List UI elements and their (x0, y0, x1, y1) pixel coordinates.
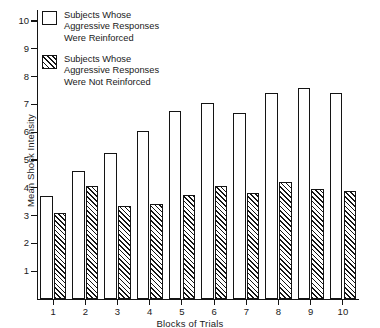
x-tick-7 (246, 300, 247, 305)
bar-block-2-series-2 (86, 186, 99, 299)
legend-label-not-reinforced: Subjects Whose Aggressive Responses Were… (64, 54, 159, 88)
legend-entry-not-reinforced: Subjects Whose Aggressive Responses Were… (42, 54, 159, 88)
bar-block-7-series-2 (247, 193, 260, 299)
bar-block-2-series-1 (72, 171, 85, 299)
y-tick-9 (31, 48, 38, 49)
bar-block-8-series-2 (279, 182, 292, 299)
bar-block-9-series-2 (311, 189, 324, 299)
bar-block-3-series-2 (118, 206, 131, 299)
y-tick-label-6: 6 (0, 127, 29, 137)
bar-block-3-series-1 (104, 153, 117, 299)
bar-block-5-series-1 (169, 111, 182, 299)
legend-entry-reinforced: Subjects Whose Aggressive Responses Were… (42, 10, 159, 44)
bar-block-6-series-2 (215, 186, 228, 299)
bar-block-9-series-1 (298, 88, 311, 299)
bar-block-7-series-1 (233, 113, 246, 299)
bar-block-5-series-2 (183, 195, 196, 299)
y-tick-label-3: 3 (0, 211, 29, 221)
x-tick-label-10: 10 (323, 307, 363, 317)
y-axis-line (37, 10, 38, 300)
bar-block-4-series-2 (150, 204, 163, 299)
x-tick-5 (181, 300, 182, 305)
y-tick-label-8: 8 (0, 72, 29, 82)
bar-block-8-series-1 (265, 93, 278, 299)
bar-block-4-series-1 (137, 131, 150, 299)
y-tick-3 (31, 215, 38, 216)
y-tick-4 (31, 187, 38, 188)
y-tick-2 (31, 243, 38, 244)
y-tick-label-9: 9 (0, 44, 29, 54)
bar-block-1-series-2 (54, 213, 67, 299)
x-tick-1 (53, 300, 54, 305)
bar-block-6-series-1 (201, 103, 214, 299)
x-tick-4 (149, 300, 150, 305)
y-tick-10 (31, 20, 38, 21)
y-tick-6 (31, 132, 38, 133)
y-tick-5 (31, 159, 38, 160)
y-tick-label-2: 2 (0, 238, 29, 248)
x-tick-2 (85, 300, 86, 305)
x-tick-8 (278, 300, 279, 305)
legend-swatch-hatched (42, 55, 57, 69)
y-tick-label-10: 10 (0, 16, 29, 26)
x-tick-10 (342, 300, 343, 305)
legend-label-reinforced: Subjects Whose Aggressive Responses Were… (64, 10, 159, 44)
x-tick-3 (117, 300, 118, 305)
x-axis-title: Blocks of Trials (0, 318, 380, 328)
x-tick-9 (310, 300, 311, 305)
x-tick-6 (214, 300, 215, 305)
bar-block-10-series-1 (330, 93, 343, 299)
bar-block-1-series-1 (40, 196, 53, 299)
y-tick-label-5: 5 (0, 155, 29, 165)
y-tick-7 (31, 104, 38, 105)
bar-block-10-series-2 (344, 191, 357, 299)
y-tick-label-1: 1 (0, 266, 29, 276)
bar-chart: Mean Shock Intensity 12345678910 1234567… (0, 0, 380, 328)
y-tick-1 (31, 271, 38, 272)
y-tick-label-7: 7 (0, 99, 29, 109)
legend-swatch-white (42, 11, 57, 25)
y-tick-label-4: 4 (0, 183, 29, 193)
y-tick-8 (31, 76, 38, 77)
